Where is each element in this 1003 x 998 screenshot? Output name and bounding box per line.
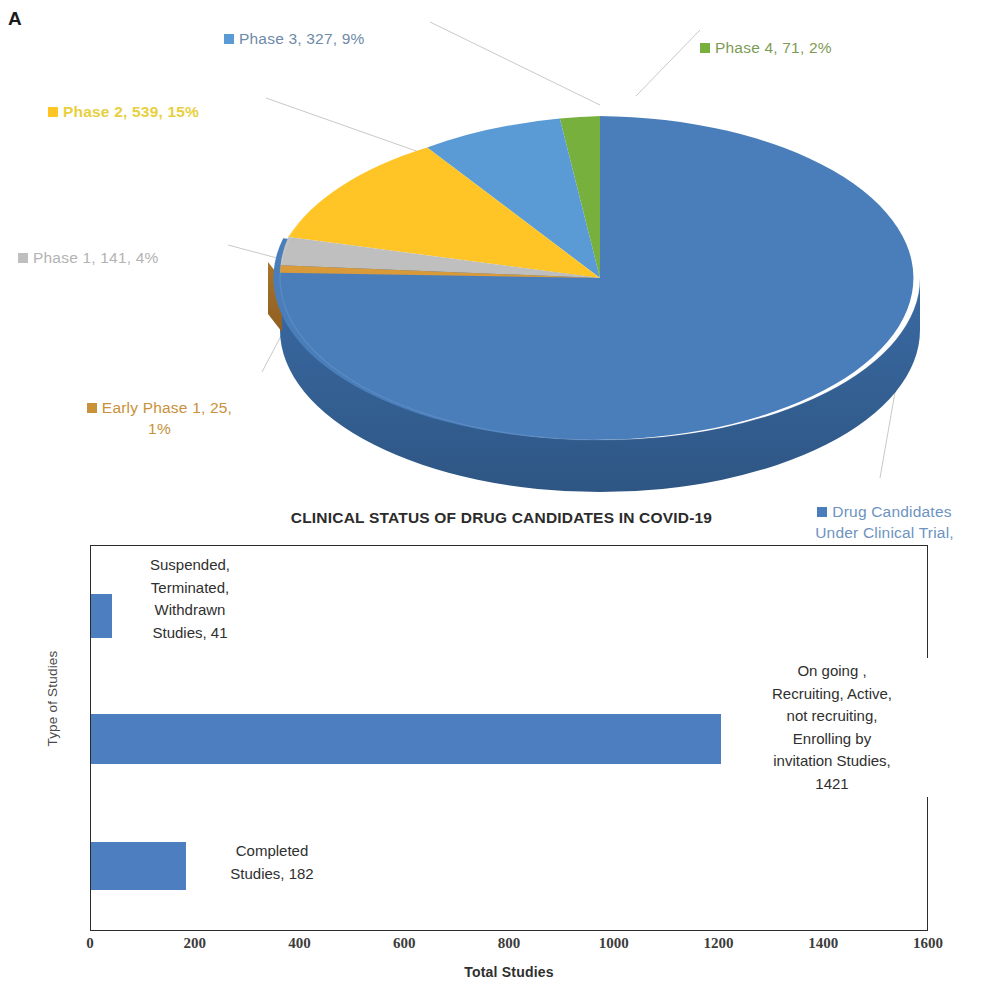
pie-label-phase-3: Phase 3, 327, 9% [224, 9, 365, 50]
pie-label-early-phase-1-text: Early Phase 1, 25, 1% [102, 399, 232, 436]
x-axis-ticks: 02004006008001000120014001600 [90, 935, 928, 961]
x-tick-label: 600 [393, 935, 416, 952]
y-axis-title: Type of Studies [45, 639, 60, 759]
bar-chart-panel: B Type of Studies Suspended, Terminated,… [0, 536, 1003, 998]
bar-label-suspended: Suspended, Terminated, Withdrawn Studies… [120, 552, 260, 646]
x-tick-label: 400 [288, 935, 311, 952]
legend-swatch-phase-3 [224, 34, 234, 44]
chart-title: CLINICAL STATUS OF DRUG CANDIDATES IN CO… [0, 509, 1003, 527]
x-tick-label: 1400 [808, 935, 838, 952]
legend-swatch-phase-4 [700, 43, 710, 53]
pie-chart-panel: A [0, 0, 1003, 500]
bar-plot-area: Suspended, Terminated, Withdrawn Studies… [90, 545, 928, 931]
x-tick-label: 0 [86, 935, 94, 952]
x-tick-label: 1200 [704, 935, 734, 952]
x-tick-label: 200 [184, 935, 207, 952]
bar-label-ongoing: On going , Recruiting, Active, not recru… [721, 658, 943, 797]
pie-label-phase-2-text: Phase 2, 539, 15% [63, 103, 199, 120]
x-tick-label: 800 [498, 935, 521, 952]
pie-label-phase-1: Phase 1, 141, 4% [18, 228, 159, 269]
pie-label-phase-4-text: Phase 4, 71, 2% [715, 39, 832, 56]
legend-swatch-phase-2 [48, 107, 58, 117]
x-axis-title: Total Studies [90, 964, 928, 980]
pie-label-early-phase-1: Early Phase 1, 25, 1% [52, 378, 267, 439]
x-tick-label: 1600 [913, 935, 943, 952]
bar-label-completed: Completed Studies, 182 [193, 838, 351, 887]
pie-label-phase-1-text: Phase 1, 141, 4% [33, 249, 159, 266]
legend-swatch-early-phase-1 [87, 403, 97, 413]
bar-suspended-terminated-withdrawn [91, 594, 112, 638]
legend-swatch-phase-1 [18, 253, 28, 263]
x-tick-label: 1000 [599, 935, 629, 952]
pie-label-phase-2: Phase 2, 539, 15% [48, 82, 199, 123]
bar-completed-studies [91, 842, 186, 890]
pie-label-phase-4: Phase 4, 71, 2% [700, 18, 832, 59]
pie-label-phase-3-text: Phase 3, 327, 9% [239, 30, 365, 47]
